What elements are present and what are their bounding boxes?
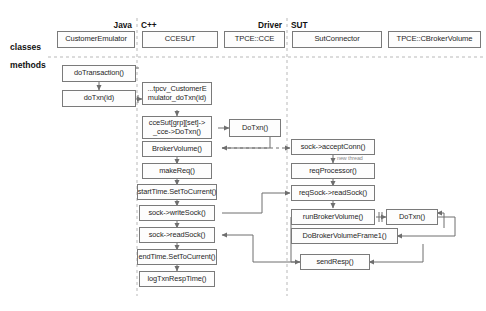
method-box-req-processor: reqProcessor(): [291, 163, 375, 179]
method-box-broker-volume: BrokerVolume(): [142, 141, 212, 157]
arrow-dobrokervolumeframe1-return-to-runbrokervolume: [437, 213, 444, 228]
arrow-dobrokervolumeframe1-to-sendresp: [369, 244, 423, 262]
method-box-reqsock-readsock: reqSock->readSock(): [291, 185, 375, 201]
method-box-run-broker-volume: runBrokerVolume(): [291, 209, 375, 225]
method-box-sut-dotxn: DoTxn(): [386, 209, 438, 225]
method-box-driver-dotxn: DoTxn(): [229, 119, 281, 137]
method-box-start-time-settocurrent: startTime.SetToCurrent(): [137, 184, 217, 200]
method-box-ccesut-grp-set-dotxn: cceSut[grp][set]-> _cce->DoTxn(): [142, 116, 212, 139]
method-box-make-req: makeReq(): [142, 163, 212, 179]
method-box-do-transaction: doTransaction(): [62, 65, 136, 82]
arrow-writesock-to-reqsock-readsock: [222, 193, 290, 213]
annotation-new-thread: new thread: [337, 155, 363, 161]
method-box-log-txn-resptime: logTxnRespTime(): [139, 271, 215, 287]
connector-layer: [0, 0, 486, 311]
arrow-sendresp-to-sock-readsock: [222, 235, 300, 262]
method-box-sock-acceptconn: sock->acceptConn(): [291, 139, 375, 155]
method-box-sock-readsock: sock->readSock(): [139, 227, 215, 243]
arrow-driver-dotxn-to-brokervolume: [222, 137, 270, 148]
method-box-end-time-settocurrent: endTime.SetToCurrent(): [137, 249, 217, 265]
method-box-send-resp: sendResp(): [300, 254, 370, 270]
sequence-diagram: Java C++ Driver SUT classes methods Cust…: [0, 0, 486, 311]
method-box-do-txn-id: doTxn(id): [62, 90, 136, 107]
method-box-jni-tpcv-customeremulator: ...tpcv_CustomerE mulator_doTxn(id): [142, 82, 212, 105]
method-box-dobrokervolumeframe1: DoBrokerVolumeFrame1(): [291, 228, 398, 244]
method-box-sock-writesock: sock->writeSock(): [139, 205, 215, 221]
